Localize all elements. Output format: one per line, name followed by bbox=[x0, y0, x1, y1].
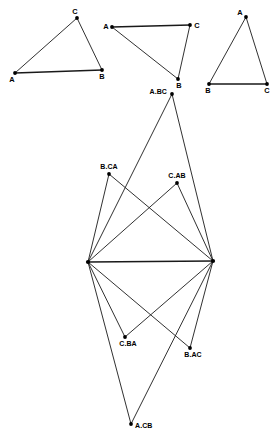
triangle-3-vertex-A bbox=[244, 15, 248, 19]
main-label-C.AB: C.AB bbox=[168, 172, 186, 179]
triangle-1-label-B: B bbox=[99, 72, 104, 81]
geometry-diagram: ABCABCABC A.BCB.CAC.ABC.BAB.ACA.CB bbox=[0, 0, 279, 435]
main-edge-hub-left-to-B.CA bbox=[88, 174, 109, 262]
diagram-canvas: ABCABCABC A.BCB.CAC.ABC.BAB.ACA.CB bbox=[0, 0, 279, 435]
reference-triangles-group: ABCABCABC bbox=[9, 7, 270, 95]
triangle-3-edge-CA bbox=[246, 17, 267, 84]
main-vertex-hub-right bbox=[211, 259, 215, 263]
triangle-1-edge-CA bbox=[15, 18, 77, 73]
main-edge-hub-right-to-B.AC bbox=[190, 261, 213, 348]
triangle-2-edge-AC bbox=[112, 25, 190, 27]
main-vertex-B.AC bbox=[188, 346, 192, 350]
main-label-C.BA: C.BA bbox=[119, 340, 137, 347]
triangle-2-edge-CB bbox=[178, 25, 190, 79]
main-vertex-C.AB bbox=[175, 181, 179, 185]
triangle-1-edge-BC bbox=[77, 18, 102, 70]
main-label-B.AC: B.AC bbox=[184, 351, 202, 358]
triangle-2: ABC bbox=[103, 21, 200, 90]
main-vertex-A.CB bbox=[129, 422, 133, 426]
triangle-1-label-A: A bbox=[9, 75, 15, 84]
triangle-1-label-C: C bbox=[72, 7, 78, 16]
main-label-A.BC: A.BC bbox=[149, 88, 167, 95]
main-edge-hub-right-to-A.CB bbox=[131, 261, 213, 424]
main-vertex-A.BC bbox=[170, 92, 174, 96]
main-vertex-C.BA bbox=[123, 335, 127, 339]
main-edge-hub-left-to-C.AB bbox=[88, 183, 177, 262]
triangle-3-edge-AB bbox=[209, 17, 246, 84]
triangle-3: ABC bbox=[205, 8, 270, 95]
triangle-3-label-C: C bbox=[264, 86, 270, 95]
main-vertex-hub-left bbox=[86, 260, 90, 264]
main-label-B.CA: B.CA bbox=[100, 163, 118, 170]
triangle-2-label-C: C bbox=[194, 21, 200, 30]
main-edge-hub-left-to-A.BC bbox=[88, 94, 172, 262]
main-edge-hub-left-to-C.BA bbox=[88, 262, 125, 337]
triangle-1: ABC bbox=[9, 7, 104, 84]
main-figure-group: A.BCB.CAC.ABC.BAB.ACA.CB bbox=[86, 88, 215, 429]
triangle-2-vertex-A bbox=[110, 25, 114, 29]
triangle-1-vertex-C bbox=[75, 16, 79, 20]
main-edge-hub-right-to-C.AB bbox=[177, 183, 213, 261]
main-edge-hub-axis bbox=[88, 261, 213, 262]
main-label-A.CB: A.CB bbox=[135, 422, 153, 429]
triangle-2-edge-BA bbox=[112, 27, 178, 79]
triangle-2-label-B: B bbox=[176, 81, 181, 90]
main-edge-hub-right-to-B.CA bbox=[109, 174, 213, 261]
triangle-3-label-A: A bbox=[237, 8, 243, 17]
triangle-2-label-A: A bbox=[103, 22, 109, 31]
triangle-2-vertex-C bbox=[188, 23, 192, 27]
triangle-1-edge-AB bbox=[15, 70, 102, 73]
main-vertex-B.CA bbox=[107, 172, 111, 176]
main-edge-hub-right-to-C.BA bbox=[125, 261, 213, 337]
triangle-3-label-B: B bbox=[205, 86, 210, 95]
main-edge-hub-left-to-B.AC bbox=[88, 262, 190, 348]
